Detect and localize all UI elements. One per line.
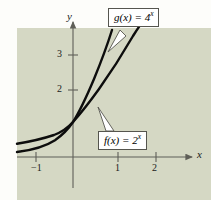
- x-axis-label: x: [197, 148, 202, 160]
- callout-f-text: f(x) = 2: [104, 134, 138, 146]
- y-tick-label-3: 3: [57, 48, 62, 59]
- x-tick-label-1: 1: [115, 162, 120, 173]
- y-tick-label-2: 2: [57, 83, 62, 94]
- y-axis-label: y: [67, 10, 72, 22]
- curve-f-2-to-the-x: [17, 19, 145, 144]
- callout-f-exponent: x: [138, 132, 141, 141]
- callout-g-text: g(x) = 4: [114, 11, 150, 23]
- callout-label-f: f(x) = 2x: [98, 131, 147, 150]
- x-tick-label-minus1: −1: [31, 162, 42, 173]
- callout-g-exponent: x: [150, 9, 153, 18]
- exponential-graph-figure: y x 3 2 −1 1 2 g(x) = 4x f(x) = 2x: [0, 0, 211, 200]
- callout-pointer-f: [98, 107, 114, 131]
- x-tick-label-2: 2: [152, 162, 157, 173]
- callout-label-g: g(x) = 4x: [108, 8, 159, 27]
